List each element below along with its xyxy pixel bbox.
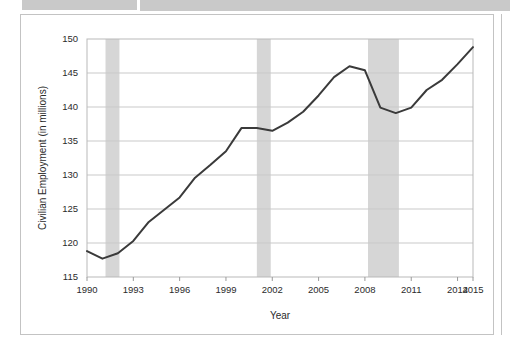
- x-tick-label: 2002: [262, 284, 283, 295]
- x-tick-label: 1999: [215, 284, 236, 295]
- recession-band: [257, 39, 271, 277]
- y-tick-label: 150: [62, 33, 78, 44]
- y-tick-label: 135: [62, 135, 78, 146]
- chart-svg: 115120125130135140145150 199019931996199…: [0, 0, 510, 350]
- x-axis-ticks: 1990199319961999200220052008201120142015: [76, 277, 483, 295]
- line-chart: 115120125130135140145150 199019931996199…: [0, 0, 510, 350]
- y-axis-title: Civilian Employment (in millions): [37, 86, 48, 230]
- shaded-recession-bands: [106, 39, 399, 277]
- y-axis-ticks: 115120125130135140145150: [62, 33, 78, 282]
- recession-band: [106, 39, 120, 277]
- y-tick-label: 145: [62, 67, 78, 78]
- y-tick-label: 115: [63, 271, 78, 282]
- x-tick-label: 1993: [123, 284, 144, 295]
- x-tick-label: 1996: [169, 284, 190, 295]
- x-tick-label: 2011: [401, 284, 421, 295]
- x-tick-label: 2008: [354, 284, 375, 295]
- screenshot-root: 115120125130135140145150 199019931996199…: [0, 0, 510, 350]
- employment-line: [87, 47, 473, 258]
- y-tick-label: 130: [62, 169, 78, 180]
- x-axis-title: Year: [270, 310, 291, 321]
- x-tick-label: 2005: [308, 284, 329, 295]
- x-tick-label: 2015: [462, 284, 483, 295]
- x-tick-label: 1990: [76, 284, 97, 295]
- y-tick-label: 125: [62, 203, 78, 214]
- recession-band: [368, 39, 399, 277]
- y-tick-label: 140: [62, 101, 78, 112]
- gridlines: [87, 73, 473, 243]
- plot-frame: [87, 39, 473, 277]
- y-tick-label: 120: [62, 237, 78, 248]
